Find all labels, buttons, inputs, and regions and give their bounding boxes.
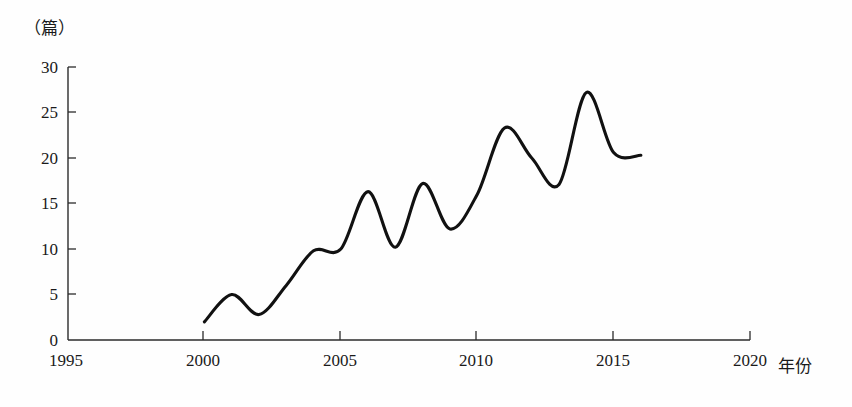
x-tick-marks [203, 331, 750, 340]
y-tick-label-15: 15 [18, 195, 58, 212]
y-tick-label-0: 0 [18, 332, 58, 349]
chart-plot-svg [0, 0, 852, 407]
y-tick-label-25: 25 [18, 104, 58, 121]
data-series-line [204, 92, 640, 322]
y-tick-marks [68, 67, 76, 294]
x-tick-label-2015: 2015 [583, 352, 643, 369]
axes-group [68, 67, 750, 340]
x-axis-title: 年份 [778, 352, 812, 377]
y-tick-label-5: 5 [18, 286, 58, 303]
x-tick-label-2020: 2020 [720, 352, 780, 369]
chart-container: （篇） 30 25 20 15 10 5 [0, 0, 852, 407]
y-tick-label-30: 30 [18, 59, 58, 76]
x-tick-label-2010: 2010 [446, 352, 506, 369]
y-tick-label-20: 20 [18, 150, 58, 167]
x-tick-label-2000: 2000 [173, 352, 233, 369]
x-tick-label-1995: 1995 [36, 352, 96, 369]
x-tick-label-2005: 2005 [310, 352, 370, 369]
y-tick-label-10: 10 [18, 241, 58, 258]
